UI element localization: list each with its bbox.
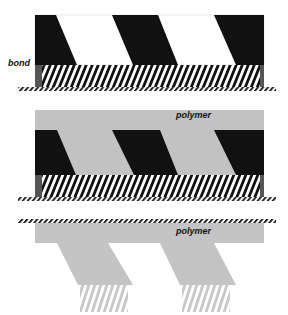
panel-1	[18, 15, 276, 91]
polymer-leg-2	[160, 243, 236, 285]
label-bond: bond	[8, 58, 30, 68]
label-polymer-middle: polymer	[176, 110, 211, 120]
substrate-hatch	[18, 219, 276, 223]
substrate-hatch	[18, 197, 276, 201]
bond-stripes	[42, 175, 260, 197]
panel-3	[18, 219, 276, 312]
polymer-fringe-1	[80, 285, 128, 312]
substrate-hatch	[18, 87, 276, 91]
polymer-fringe-2	[182, 285, 230, 312]
polymer-band	[35, 223, 264, 243]
panel-2	[18, 110, 276, 201]
polymer-leg-1	[57, 243, 133, 285]
diagram-canvas	[0, 0, 288, 315]
bond-stripes	[42, 65, 260, 87]
label-polymer-bottom: polymer	[176, 226, 211, 236]
